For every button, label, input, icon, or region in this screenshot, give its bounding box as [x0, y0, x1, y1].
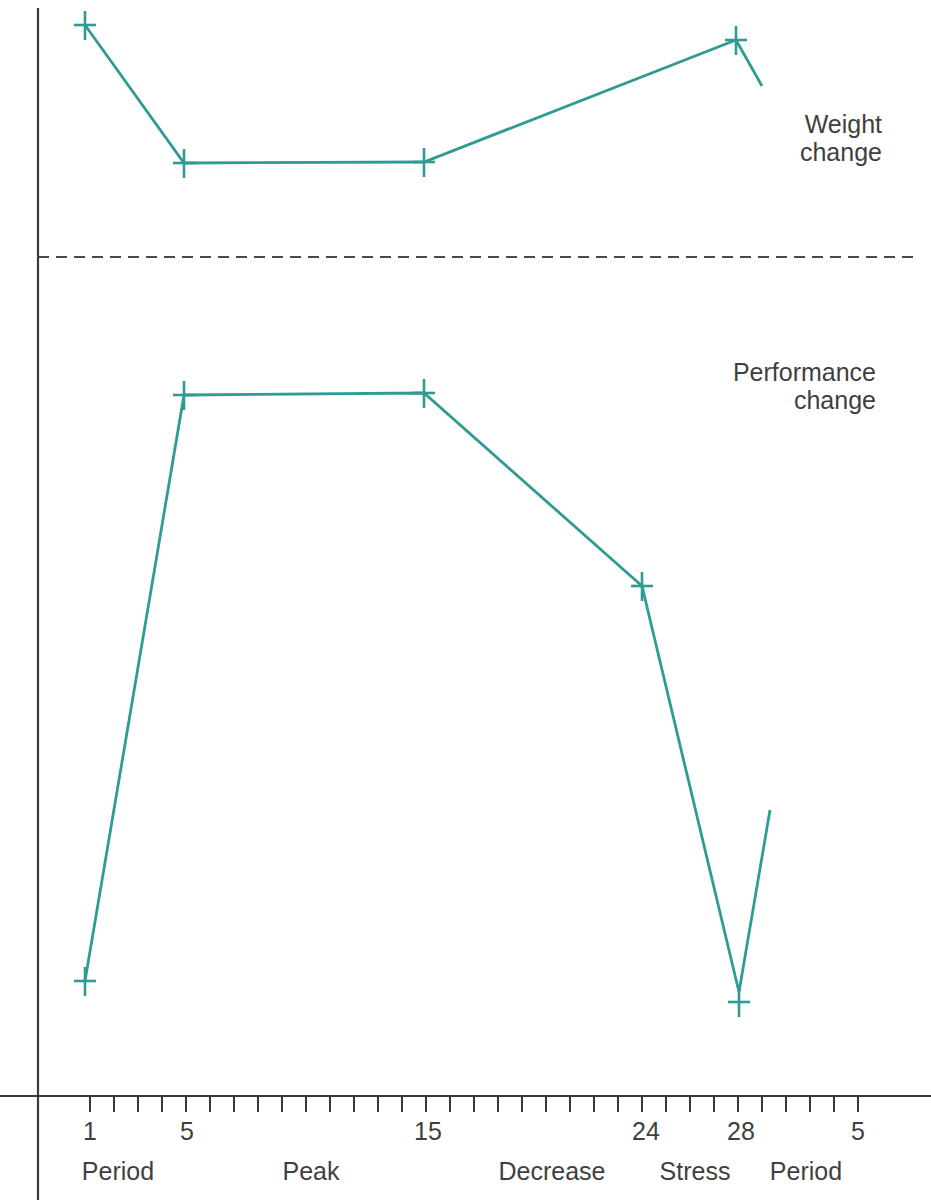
- performance-change-label-line1: Performance: [733, 358, 876, 386]
- figure-container: 151524285PeriodPeakDecreaseStressPeriod …: [0, 0, 931, 1200]
- x-tick-label: 1: [83, 1117, 97, 1145]
- performance-change-line: [85, 393, 770, 992]
- x-phase-label: Stress: [660, 1157, 731, 1185]
- performance-change-label-line2: change: [733, 386, 876, 414]
- x-tick-label: 15: [414, 1117, 442, 1145]
- x-tick-label: 24: [632, 1117, 660, 1145]
- performance-change-label: Performance change: [733, 358, 876, 414]
- x-phase-label: Period: [770, 1157, 842, 1185]
- weight-change-label: Weight change: [800, 110, 882, 166]
- x-tick-label: 28: [727, 1117, 755, 1145]
- line-chart: 151524285PeriodPeakDecreaseStressPeriod: [0, 0, 931, 1200]
- weight-change-line: [85, 25, 762, 163]
- weight-change-label-line2: change: [800, 138, 882, 166]
- weight-change-label-line1: Weight: [800, 110, 882, 138]
- x-phase-label: Decrease: [499, 1157, 606, 1185]
- x-tick-label: 5: [851, 1117, 865, 1145]
- x-phase-label: Peak: [283, 1157, 340, 1185]
- x-tick-label: 5: [180, 1117, 194, 1145]
- x-phase-label: Period: [82, 1157, 154, 1185]
